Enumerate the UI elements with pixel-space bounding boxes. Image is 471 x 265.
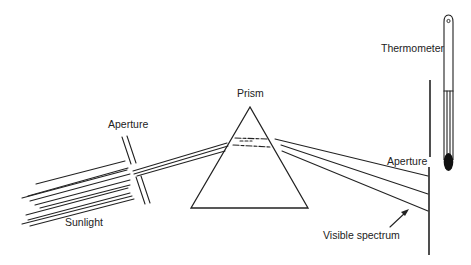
sunlight-ray: [35, 180, 130, 205]
aperture-edge: [136, 177, 145, 204]
visible-spectrum-label: Visible spectrum: [323, 229, 400, 241]
right-aperture-label: Aperture: [387, 155, 427, 167]
thermometer: [444, 15, 454, 171]
thermometer-top-loop: [447, 19, 450, 22]
screen: [429, 80, 430, 255]
sunlight-label: Sunlight: [65, 216, 103, 228]
internal-ray: [233, 145, 270, 147]
thermometer-bulb: [444, 153, 454, 171]
beam-ray: [133, 143, 227, 171]
thermometer-label: Thermometer: [381, 42, 445, 54]
aperture-edge: [122, 137, 131, 164]
left-aperture-label: Aperture: [108, 118, 148, 130]
narrow-beam: [133, 143, 228, 176]
internal-ray: [235, 138, 268, 139]
prism: [191, 107, 308, 208]
visible-spectrum-arrow: [390, 209, 409, 227]
dispersed-rays: [275, 139, 428, 211]
aperture-edge: [127, 136, 136, 163]
prism-experiment-diagram: Aperture Prism Aperture Thermometer Visi…: [0, 0, 471, 265]
dispersed-ray: [281, 145, 428, 194]
thermometer-tube: [444, 15, 453, 160]
aperture-edge: [141, 176, 150, 203]
internal-rays: [233, 138, 270, 147]
prism-label: Prism: [237, 87, 264, 99]
